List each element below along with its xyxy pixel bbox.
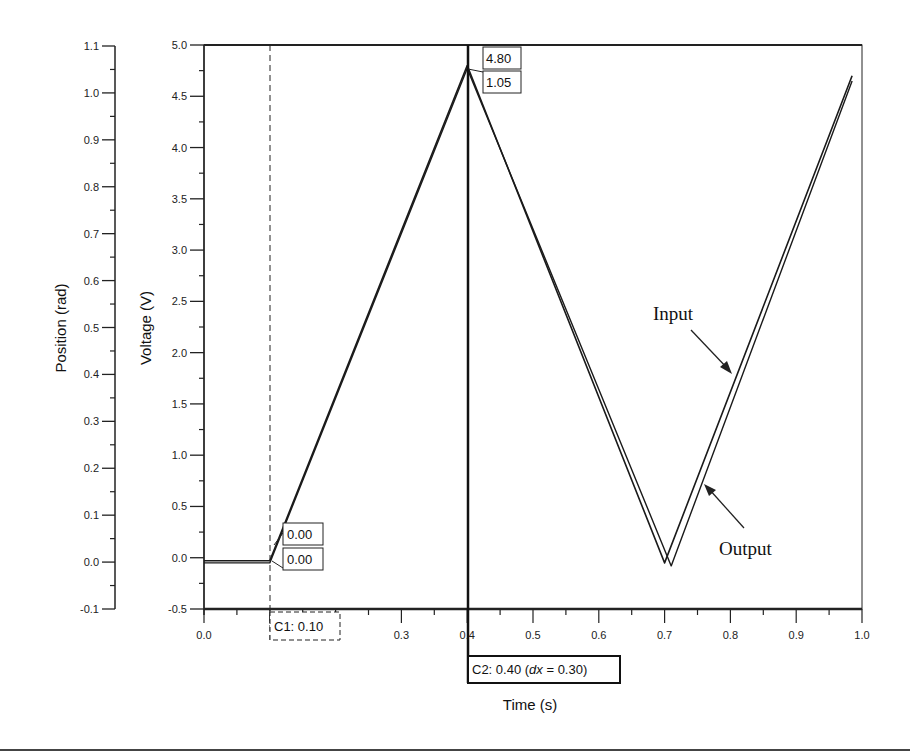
- voltage-tick-label: 3.0: [172, 244, 187, 256]
- position-tick-label: 0.4: [84, 368, 99, 380]
- c2-value-top: 4.80: [486, 51, 511, 66]
- cursor-c1-label: C1: 0.10: [274, 619, 323, 634]
- position-tick-label: 0.1: [84, 509, 99, 521]
- voltage-tick-label: 3.5: [172, 193, 187, 205]
- position-tick-label: 1.1: [84, 40, 99, 52]
- cursor-c2-label: C2: 0.40 (dx = 0.30): [472, 662, 587, 677]
- voltage-tick-label: -0.5: [168, 603, 187, 615]
- time-tick-label: 1.0: [854, 629, 869, 641]
- series-lines: [204, 66, 852, 566]
- position-tick-label: 0.7: [84, 228, 99, 240]
- position-tick-label: 0.8: [84, 181, 99, 193]
- voltage-tick-label: 1.0: [172, 449, 187, 461]
- input-arrow-shaft: [691, 330, 728, 369]
- voltage-tick-label: 5.0: [172, 39, 187, 51]
- voltage-tick-label: 1.5: [172, 398, 187, 410]
- chart: -0.10.00.10.20.30.40.50.60.70.80.91.01.1…: [0, 0, 915, 752]
- time-tick-label: 0.9: [789, 629, 804, 641]
- voltage-tick-label: 4.5: [172, 90, 187, 102]
- time-axis-title: Time (s): [503, 696, 557, 713]
- position-tick-label: 0.2: [84, 462, 99, 474]
- voltage-tick-label: 0.5: [172, 500, 187, 512]
- c1-value-top: 0.00: [287, 527, 312, 542]
- input-annotation-label: Input: [653, 303, 694, 324]
- output-annotation: Output: [704, 484, 773, 559]
- voltage-tick-label: 2.0: [172, 347, 187, 359]
- voltage-tick-label: 4.0: [172, 142, 187, 154]
- voltage-tick-label: 0.0: [172, 552, 187, 564]
- cursor-c2[interactable]: C2: 0.40 (dx = 0.30) 4.80 1.05: [468, 45, 620, 683]
- time-tick-label: 0.7: [657, 629, 672, 641]
- position-axis-title: Position (rad): [52, 283, 69, 372]
- time-tick-label: 0.3: [394, 629, 409, 641]
- position-tick-label: 0.0: [84, 556, 99, 568]
- time-tick-label: 0.0: [196, 629, 211, 641]
- position-tick-label: 0.9: [84, 134, 99, 146]
- c1-leader-top: [274, 533, 283, 545]
- voltage-axis: -0.50.00.51.01.52.02.53.03.54.04.55.0: [168, 39, 204, 615]
- position-tick-label: 0.3: [84, 415, 99, 427]
- time-tick-label: 0.8: [723, 629, 738, 641]
- position-tick-label: 1.0: [84, 87, 99, 99]
- voltage-axis-title: Voltage (V): [137, 291, 154, 365]
- position-tick-label: -0.1: [80, 603, 99, 615]
- series-input: [204, 66, 852, 563]
- voltage-tick-label: 2.5: [172, 295, 187, 307]
- input-annotation: Input: [653, 303, 732, 374]
- position-tick-label: 0.6: [84, 275, 99, 287]
- series-output: [204, 69, 852, 566]
- output-annotation-label: Output: [719, 538, 773, 559]
- time-tick-label: 0.6: [591, 629, 606, 641]
- time-tick-label: 0.5: [525, 629, 540, 641]
- output-arrow-shaft: [709, 489, 744, 528]
- position-tick-label: 0.5: [84, 322, 99, 334]
- position-axis: -0.10.00.10.20.30.40.50.60.70.80.91.01.1: [80, 40, 115, 615]
- c1-value-bottom: 0.00: [287, 552, 312, 567]
- cursor-c1[interactable]: C1: 0.10 0.00 0.00: [270, 45, 340, 640]
- c2-value-bottom: 1.05: [486, 75, 511, 90]
- c1-leader-bottom: [272, 561, 283, 568]
